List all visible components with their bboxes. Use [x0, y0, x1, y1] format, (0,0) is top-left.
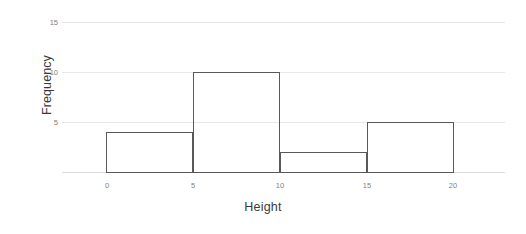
x-tick-label-15: 15: [347, 181, 387, 190]
x-tick-label-10: 10: [260, 181, 300, 190]
x-axis-title: Height: [0, 200, 526, 214]
histogram-bar-0-5: [106, 132, 193, 173]
x-tick-label-5: 5: [173, 181, 213, 190]
x-tick-label-0: 0: [87, 181, 127, 190]
x-tick-label-20: 20: [433, 181, 473, 190]
histogram-bar-10-15: [280, 152, 367, 173]
x-axis-line: [106, 172, 454, 173]
bars-layer: [0, 0, 526, 234]
histogram-bar-5-10: [193, 72, 280, 173]
histogram-chart: Frequency 15 10 5 0 5 10 15 20 Height: [0, 0, 526, 234]
histogram-bar-15-20: [367, 122, 454, 173]
